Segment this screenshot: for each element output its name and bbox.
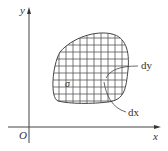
x-axis-label: x — [153, 131, 158, 142]
dx-label: dx — [128, 107, 139, 118]
region-boundary — [53, 33, 129, 103]
diagram-canvas: y O x σ dy dx — [0, 0, 168, 151]
origin-label: O — [19, 130, 27, 141]
dy-label: dy — [141, 60, 152, 71]
axes — [8, 7, 161, 143]
y-axis-arrow-icon — [27, 7, 31, 14]
y-axis-label: y — [20, 5, 25, 16]
region-label: σ — [65, 79, 70, 89]
x-axis-arrow-icon — [154, 125, 161, 129]
